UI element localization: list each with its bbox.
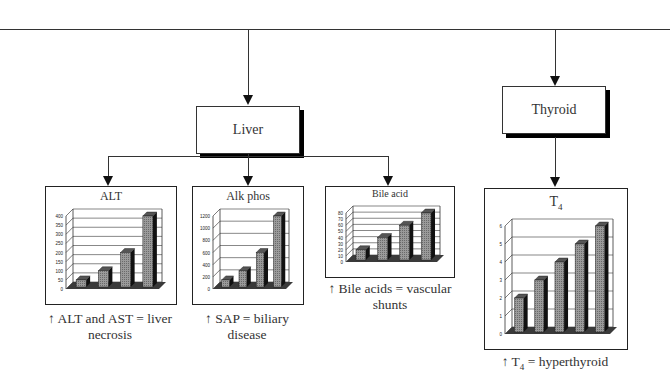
bile-chart: Bile acid 01020304050607080 [325,186,455,278]
svg-text:350: 350 [55,223,63,228]
bile-bar-plot: 01020304050607080 [326,198,454,274]
alkphos-caption-line2: disease [180,327,314,343]
alt-caption-line2: necrosis [35,327,185,343]
svg-text:10: 10 [338,254,344,259]
svg-text:6: 6 [499,224,502,229]
t4-chart-title: T4 [485,194,627,212]
connector-to-thyroid [555,29,556,77]
branch-bile-line [388,156,389,177]
svg-text:200: 200 [202,275,210,280]
t4-caption: ↑ T4 = hyperthyroid [478,354,632,375]
connector-to-liver [248,29,249,97]
alt-chart: ALT 050100150200250300350400 [45,186,177,305]
svg-text:50: 50 [58,278,64,283]
svg-text:400: 400 [202,263,210,268]
svg-text:200: 200 [55,251,63,256]
svg-text:800: 800 [202,238,210,243]
arrow-to-alkphos [243,176,253,186]
arrow-to-liver [243,95,253,105]
t4-bar-plot: 0123456 [485,211,627,346]
svg-text:600: 600 [202,251,210,256]
svg-text:60: 60 [338,223,344,228]
alkphos-caption: ↑ SAP = biliary disease [180,311,314,343]
svg-text:70: 70 [338,217,344,222]
arrow-to-alt [103,176,113,186]
svg-text:1: 1 [499,314,502,319]
svg-text:50: 50 [338,229,344,234]
svg-text:400: 400 [55,214,63,219]
t4-caption-suffix: = hyperthyroid [524,354,608,369]
bile-caption: ↑ Bile acids = vascular shunts [315,281,465,313]
thyroid-label: Thyroid [531,102,576,118]
branch-alt-line [108,156,109,177]
svg-text:100: 100 [55,269,63,274]
svg-text:1000: 1000 [200,226,211,231]
alkphos-bar-plot: 020040060080010001200 [193,201,303,301]
thyroid-node: Thyroid [502,86,606,134]
svg-text:250: 250 [55,241,63,246]
alt-caption: ↑ ALT and AST = liver necrosis [35,311,185,343]
alt-bar-plot: 050100150200250300350400 [46,201,176,301]
svg-text:0: 0 [340,260,343,265]
svg-text:40: 40 [338,236,344,241]
arrow-to-bile [383,176,393,186]
svg-text:4: 4 [499,260,502,265]
bile-caption-line2: shunts [315,297,465,313]
liver-label: Liver [233,122,263,138]
arrow-to-t4 [550,177,560,187]
alt-caption-line1: ↑ ALT and AST = liver [35,311,185,327]
svg-text:30: 30 [338,242,344,247]
alkphos-chart: Alk phos 020040060080010001200 [192,186,304,305]
t4-title-main: T [549,194,558,209]
svg-text:0: 0 [499,332,502,337]
thyroid-down-line [555,137,556,178]
svg-text:0: 0 [207,287,210,292]
t4-chart: T4 0123456 [484,188,628,350]
svg-text:150: 150 [55,260,63,265]
svg-text:20: 20 [338,248,344,253]
svg-text:80: 80 [338,211,344,216]
bile-caption-line1: ↑ Bile acids = vascular [315,281,465,297]
svg-text:300: 300 [55,232,63,237]
liver-node: Liver [196,106,300,154]
t4-caption-prefix: ↑ T [502,354,520,369]
arrow-to-thyroid [550,76,560,86]
top-connector-line [0,29,670,30]
svg-text:5: 5 [499,242,502,247]
svg-text:0: 0 [60,287,63,292]
alkphos-caption-line1: ↑ SAP = biliary [180,311,314,327]
svg-text:2: 2 [499,296,502,301]
svg-text:1200: 1200 [200,214,211,219]
svg-text:3: 3 [499,278,502,283]
liver-branch-line [108,156,389,157]
